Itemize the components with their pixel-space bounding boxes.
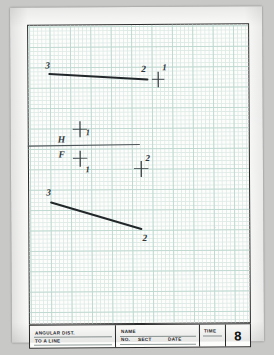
point-label-1-horizontal: 1: [86, 127, 90, 137]
title-block-time-cell: TIME: [200, 324, 226, 346]
drawing-frame: 3 2 1 1 H F: [27, 23, 251, 324]
point-marker-2-frontal-view: 2: [134, 153, 151, 177]
scanned-page-background: 3 2 1 1 H F: [0, 0, 274, 355]
point-label-2-frontal: 2: [144, 153, 150, 163]
bottom-line-segment: [51, 202, 141, 230]
number-field-label[interactable]: NO.: [121, 337, 138, 342]
date-field-label[interactable]: DATE: [168, 337, 182, 342]
fold-line-group: H F: [28, 134, 140, 160]
name-field-label[interactable]: NAME: [121, 329, 199, 334]
fold-line-label-h: H: [57, 134, 66, 144]
section-field-label[interactable]: SECT: [138, 337, 168, 342]
title-block-description-cell: ANGULAR DIST. TO A LINE: [30, 325, 116, 348]
bottom-line-label-2: 2: [141, 233, 147, 243]
time-field-label[interactable]: TIME: [204, 328, 225, 333]
point-label-1-upper: 1: [162, 62, 167, 72]
top-line-segment: [49, 73, 147, 80]
sheet-number: 8: [234, 329, 242, 342]
bottom-line-group: 3 2: [45, 187, 147, 244]
title-block-name-cell: NAME NO. SECT DATE: [116, 325, 200, 348]
rule-line: [120, 344, 196, 345]
rule-line: [203, 335, 222, 336]
worksheet-page: 3 2 1 1 H F: [10, 6, 264, 343]
point-marker-1-horizontal-view: 1: [73, 121, 90, 137]
title-block-sheet-number-cell: 8: [226, 324, 250, 346]
point-label-1-frontal: 1: [85, 164, 89, 174]
point-marker-1-upper: 1: [152, 62, 167, 87]
top-line-label-3: 3: [44, 61, 50, 71]
title-block: ANGULAR DIST. TO A LINE NAME NO. SECT DA…: [29, 323, 251, 348]
fold-line-label-f: F: [57, 149, 65, 159]
top-line-group: 3 2: [44, 60, 147, 80]
pencil-drawing-layer: 3 2 1 1 H F: [28, 24, 252, 325]
top-line-label-2: 2: [140, 64, 146, 74]
identity-row: NO. SECT DATE: [121, 337, 195, 342]
bottom-line-label-3: 3: [45, 188, 51, 198]
point-marker-1-frontal-view: 1: [73, 151, 90, 175]
fold-line: [28, 144, 140, 146]
